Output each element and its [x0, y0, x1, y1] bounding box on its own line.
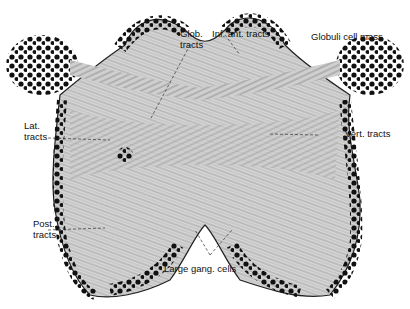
label-post-tracts: Post. tracts	[33, 218, 56, 240]
illustration: Glob. tracts Inf. ant. tracts Globuli ce…	[0, 0, 410, 309]
label-glob-tracts: Glob. tracts	[180, 28, 203, 50]
globuli-cell-mass-left	[6, 35, 78, 95]
label-large-gang-cells: Large gang. cells	[164, 263, 236, 274]
label-vert-tracts: Vert. tracts	[345, 128, 390, 139]
globuli-cell-mass-right	[336, 35, 404, 95]
label-inf-ant-tracts: Inf. ant. tracts	[212, 28, 270, 39]
label-lat-tracts: Lat. tracts	[24, 120, 47, 142]
label-globuli-cell-mass: Globuli cell mass	[311, 31, 383, 42]
